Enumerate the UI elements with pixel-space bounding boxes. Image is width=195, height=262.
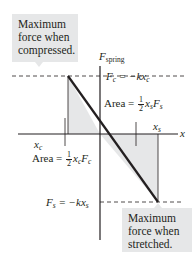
xs-label: xs bbox=[153, 120, 161, 136]
x-axis-label: x bbox=[180, 127, 185, 139]
stretched-callout: Maximum force when stretched. bbox=[122, 208, 192, 252]
compressed-callout: Maximum force when compressed. bbox=[12, 14, 78, 62]
Fc-equation: Fc = −kxc bbox=[106, 70, 150, 86]
Fs-equation: Fs = −kxs bbox=[46, 196, 89, 212]
compression-area bbox=[68, 76, 100, 134]
y-axis-label: Fspring bbox=[99, 50, 124, 66]
area-stretch-label: Area = 12xsFs bbox=[104, 96, 163, 113]
area-compress-label: Area = 12xcFc bbox=[32, 151, 91, 168]
stretch-area bbox=[100, 134, 158, 202]
